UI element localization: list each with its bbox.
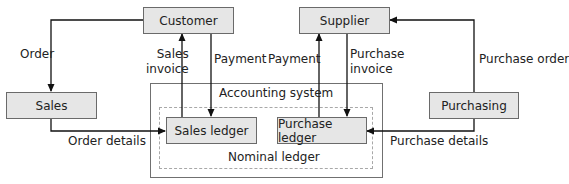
supplier-payment-label: Payment (268, 52, 321, 67)
sales-invoice-label: Sales invoice (146, 47, 189, 77)
order-arrow (51, 20, 143, 91)
order-label: Order (20, 47, 54, 62)
nominal-ledger-label: Nominal ledger (228, 150, 320, 165)
purchase-ledger-label: Purchase ledger (278, 117, 366, 145)
supplier-label: Supplier (320, 14, 369, 28)
order-details-label: Order details (68, 134, 146, 149)
purchasing-label: Purchasing (441, 99, 507, 113)
sales-invoice-line2: invoice (146, 62, 189, 77)
sales-label: Sales (36, 99, 68, 113)
sales-invoice-line1: Sales (146, 47, 189, 62)
purchase-details-arrow (367, 118, 474, 131)
purchase-invoice-line2: invoice (350, 62, 405, 77)
sales-ledger-node: Sales ledger (166, 117, 257, 144)
customer-payment-label: Payment (214, 52, 267, 67)
purchasing-node: Purchasing (429, 92, 519, 119)
purchase-order-label: Purchase order (479, 52, 569, 67)
purchase-details-label: Purchase details (390, 134, 488, 149)
purchase-invoice-line1: Purchase (350, 47, 405, 62)
purchase-ledger-node: Purchase ledger (277, 117, 367, 144)
sales-node: Sales (6, 92, 97, 119)
supplier-node: Supplier (299, 7, 390, 34)
purchase-invoice-label: Purchase invoice (350, 47, 405, 77)
order-details-arrow (51, 118, 165, 131)
sales-ledger-label: Sales ledger (174, 124, 248, 138)
accounting-system-label: Accounting system (219, 86, 333, 101)
customer-label: Customer (159, 14, 217, 28)
customer-node: Customer (143, 7, 234, 34)
